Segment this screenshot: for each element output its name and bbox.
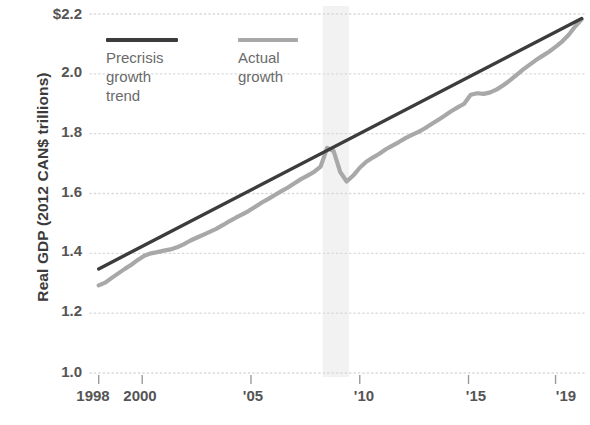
recession-band	[323, 6, 349, 377]
x-tick-2010: '10	[354, 387, 374, 404]
x-tick-2000: 2000	[123, 387, 156, 404]
legend-item-actual-growth: Actual growth	[238, 38, 298, 87]
x-tick-2019: '19	[556, 387, 576, 404]
x-tick-2015: '15	[466, 387, 486, 404]
legend-swatch-precrisis-trend	[106, 38, 178, 42]
x-tick-1998: 1998	[76, 387, 109, 404]
legend-item-precrisis-trend: Precrisis growth trend	[106, 38, 178, 105]
legend-label-actual-growth: Actual growth	[238, 49, 298, 87]
legend-label-precrisis-trend: Precrisis growth trend	[106, 49, 178, 105]
x-tick-2005: '05	[243, 387, 263, 404]
legend-swatch-actual-growth	[238, 38, 298, 42]
gdp-line-chart: Real GDP (2012 CAN$ trillions) $2.2 2.0 …	[0, 0, 590, 425]
